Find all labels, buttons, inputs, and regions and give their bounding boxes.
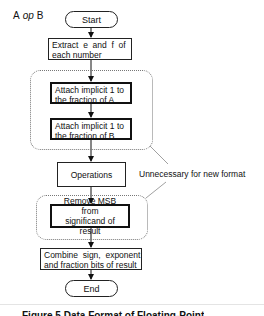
extract-node: Extract e and f of each number bbox=[48, 38, 132, 60]
diagram-title: AopB bbox=[13, 10, 43, 21]
annotation-unnecessary: Unnecessary for new format bbox=[139, 169, 245, 179]
figure-caption: Figure 5 Data Format of Floating-Point bbox=[22, 310, 204, 316]
attach-a-line-2: the fraction of A bbox=[55, 95, 127, 105]
attach-a-node: Attach implicit 1 to the fraction of A bbox=[50, 82, 132, 104]
operations-node: Operations bbox=[57, 162, 126, 187]
attach-b-line-1: Attach implicit 1 to bbox=[55, 121, 127, 131]
operator: op bbox=[23, 10, 34, 21]
attach-a-line-1: Attach implicit 1 to bbox=[55, 85, 127, 95]
remove-msb-node: Remove MSB from significand of result bbox=[50, 204, 130, 228]
operand-b: B bbox=[37, 10, 44, 21]
attach-b-line-2: the fraction of B bbox=[55, 131, 127, 141]
start-node: Start bbox=[65, 11, 118, 28]
extract-line-1: Extract e and f of bbox=[52, 40, 128, 50]
combine-node: Combine sign, exponent and fraction bits… bbox=[40, 248, 142, 270]
remove-msb-line-1: Remove MSB from bbox=[55, 196, 125, 216]
remove-msb-line-2: significand of result bbox=[55, 216, 125, 236]
operand-a: A bbox=[13, 10, 20, 21]
extract-line-2: each number bbox=[52, 50, 128, 60]
attach-b-node: Attach implicit 1 to the fraction of B bbox=[50, 118, 132, 140]
combine-line-2: and fraction bits of result bbox=[44, 260, 138, 270]
combine-line-1: Combine sign, exponent bbox=[44, 250, 138, 260]
end-node: End bbox=[65, 280, 118, 297]
separator bbox=[0, 304, 264, 305]
